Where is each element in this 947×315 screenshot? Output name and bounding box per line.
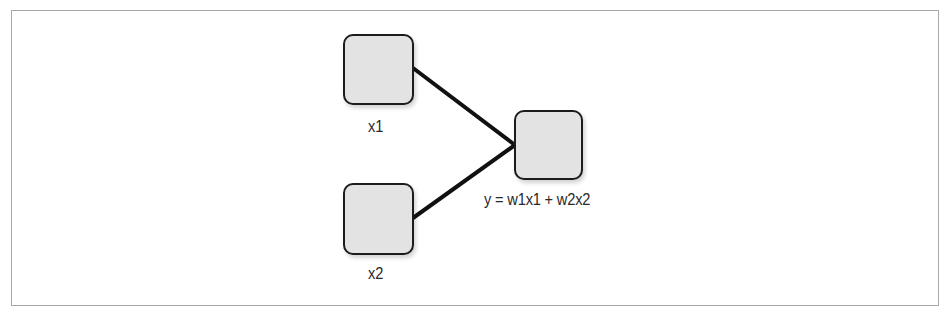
input-node-x2-label: x2: [368, 264, 383, 284]
output-node-y: [514, 110, 583, 180]
diagram-frame: [11, 10, 939, 306]
input-node-x1: [343, 34, 414, 105]
input-node-x1-label: x1: [368, 117, 383, 137]
input-node-x2: [343, 183, 414, 255]
output-node-y-formula: y = w1x1 + w2x2: [484, 190, 590, 210]
